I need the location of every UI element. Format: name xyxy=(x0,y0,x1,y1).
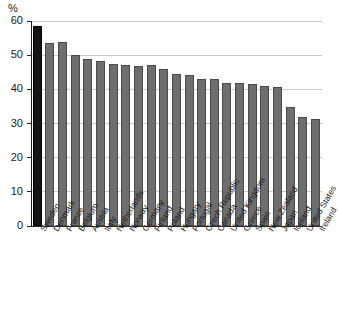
bar-slot xyxy=(271,21,284,226)
y-tick-label-60: 60 xyxy=(1,14,23,26)
bar-slot xyxy=(309,21,322,226)
x-axis-category-labels: SwedenDenmarkFranceBelgiumAustriaItalyNe… xyxy=(31,228,322,320)
bar-slot xyxy=(56,21,69,226)
bar-new-zealand[interactable] xyxy=(260,86,269,226)
bar-slot xyxy=(44,21,57,226)
bar-slot xyxy=(82,21,95,226)
y-tick-label-30: 30 xyxy=(1,117,23,129)
bar-france[interactable] xyxy=(58,42,67,226)
bar-series xyxy=(31,21,322,226)
bar-denmark[interactable] xyxy=(45,43,54,226)
bar-slot xyxy=(233,21,246,226)
bar-slot xyxy=(296,21,309,226)
plot-area xyxy=(31,21,322,226)
bar-italy[interactable] xyxy=(96,61,105,226)
y-tick-label-0: 0 xyxy=(1,219,23,231)
y-tick-label-50: 50 xyxy=(1,48,23,60)
bar-sweden[interactable] xyxy=(33,26,42,226)
y-tick-label-10: 10 xyxy=(1,185,23,197)
bar-slot xyxy=(259,21,272,226)
bar-slot xyxy=(157,21,170,226)
bar-slot xyxy=(145,21,158,226)
bar-slot xyxy=(107,21,120,226)
bar-slot xyxy=(170,21,183,226)
bar-slot xyxy=(119,21,132,226)
bar-slot xyxy=(208,21,221,226)
bar-slot xyxy=(31,21,44,226)
bar-netherlands[interactable] xyxy=(109,64,118,226)
bar-slot xyxy=(94,21,107,226)
y-tick-label-20: 20 xyxy=(1,151,23,163)
bar-slot xyxy=(69,21,82,226)
bar-slot xyxy=(195,21,208,226)
bar-slot xyxy=(183,21,196,226)
bar-hungary[interactable] xyxy=(172,74,181,226)
y-tick-label-40: 40 xyxy=(1,82,23,94)
